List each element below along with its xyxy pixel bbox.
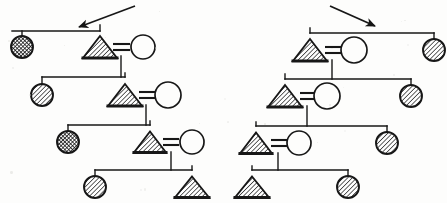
triangle-hatched bbox=[83, 36, 117, 58]
triangle-hatched bbox=[293, 39, 327, 61]
left-pedigree-gen2-female-affected bbox=[31, 77, 53, 106]
left-pedigree-gen1-female-hatched bbox=[11, 31, 33, 58]
circle-hatched bbox=[423, 39, 445, 61]
right-pedigree-gen2-female-affected bbox=[400, 79, 422, 107]
circle-open bbox=[314, 83, 340, 109]
left-pedigree-gen1-mate-female bbox=[131, 35, 155, 59]
right-pedigree-gen4-female-affected bbox=[337, 170, 359, 198]
left-pedigree-gen4-male-affected bbox=[174, 166, 211, 198]
left-pedigree-mating-bar-gen2 bbox=[139, 92, 155, 98]
proband-arrow-right bbox=[330, 6, 375, 26]
circle-open bbox=[155, 82, 181, 108]
right-pedigree-gen2-mate-female bbox=[314, 83, 340, 109]
circle-hatched bbox=[337, 176, 359, 198]
triangle-hatched bbox=[240, 133, 272, 154]
circle-open bbox=[341, 37, 367, 63]
pedigree-layer bbox=[11, 25, 445, 198]
right-pedigree-gen1-female-affected bbox=[423, 33, 445, 61]
left-pedigree-gen2-mate-female bbox=[155, 82, 181, 108]
right-pedigree-gen3-female-affected bbox=[376, 126, 398, 154]
left-pedigree-gen2-male-affected bbox=[107, 73, 144, 106]
pedigree-canvas bbox=[0, 0, 447, 203]
right-pedigree bbox=[234, 28, 446, 198]
right-pedigree-generation-I bbox=[292, 28, 446, 79]
circle-hatched bbox=[84, 176, 106, 198]
circle-crosshatched bbox=[57, 131, 79, 153]
circle-open bbox=[131, 35, 155, 59]
left-pedigree-generation-II bbox=[31, 73, 181, 125]
left-pedigree-generation-IV bbox=[84, 166, 211, 198]
circle-crosshatched bbox=[11, 36, 33, 58]
left-pedigree-gen3-female-affected bbox=[57, 125, 79, 153]
triangle-hatched bbox=[235, 177, 269, 198]
circle-hatched bbox=[31, 84, 53, 106]
right-pedigree-gen3-mate-female bbox=[287, 131, 311, 155]
annotation-layer bbox=[79, 6, 375, 27]
proband-arrow-left bbox=[79, 6, 135, 27]
triangle-hatched bbox=[268, 85, 302, 107]
left-pedigree-generation-I bbox=[11, 25, 155, 77]
right-pedigree-generation-II bbox=[267, 74, 423, 126]
left-pedigree bbox=[11, 25, 211, 198]
left-pedigree-generation-III bbox=[57, 121, 204, 170]
left-pedigree-gen1-male-affected bbox=[82, 25, 119, 58]
right-pedigree-gen1-mate-female bbox=[341, 37, 367, 63]
left-pedigree-mating-bar-gen3 bbox=[163, 139, 179, 145]
triangle-hatched bbox=[175, 177, 209, 198]
right-pedigree-mating-bar-gen1 bbox=[325, 47, 341, 53]
right-pedigree-gen4-male-affected bbox=[234, 166, 271, 198]
circle-hatched bbox=[400, 85, 422, 107]
left-pedigree-gen3-mate-female bbox=[180, 130, 204, 154]
right-pedigree-mating-bar-gen3 bbox=[271, 140, 287, 146]
left-pedigree-gen3-male-affected bbox=[133, 121, 168, 153]
circle-open bbox=[287, 131, 311, 155]
circle-hatched bbox=[376, 132, 398, 154]
right-pedigree-generation-III bbox=[239, 122, 399, 170]
right-pedigree-gen3-male-affected bbox=[239, 122, 274, 154]
triangle-hatched bbox=[108, 84, 142, 106]
left-pedigree-gen4-female-affected bbox=[84, 170, 106, 198]
circle-open bbox=[180, 130, 204, 154]
right-pedigree-generation-IV bbox=[234, 166, 360, 198]
pedigree-figure bbox=[0, 0, 447, 203]
left-pedigree-mating-bar-gen1 bbox=[113, 44, 130, 50]
triangle-hatched bbox=[134, 132, 166, 153]
right-pedigree-mating-bar-gen2 bbox=[300, 93, 315, 99]
